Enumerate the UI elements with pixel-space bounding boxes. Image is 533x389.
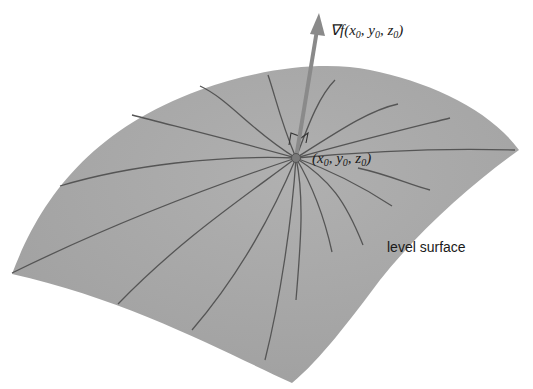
point-marker — [292, 154, 301, 163]
level-surface-diagram: ∇f(x0, y0, z0) (x0, y0, z0) level surfac… — [0, 0, 533, 389]
level-surface-patch — [12, 66, 519, 383]
level-surface-label: level surface — [387, 239, 466, 255]
gradient-label: ∇f(x0, y0, z0) — [330, 22, 403, 40]
